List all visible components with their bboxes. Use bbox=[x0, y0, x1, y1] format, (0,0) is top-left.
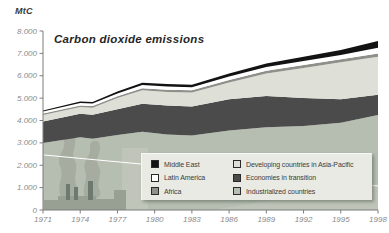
x-tick-label: 1971 bbox=[34, 215, 52, 224]
legend-label: Industrialized countries bbox=[246, 188, 315, 195]
y-tick-label: 3.000 bbox=[17, 138, 38, 147]
y-tick-label: 1.000 bbox=[17, 183, 38, 192]
legend-label: Economies in transition bbox=[246, 174, 316, 181]
legend-column-1: Middle East Latin America Africa bbox=[151, 158, 233, 197]
legend-label: Africa bbox=[164, 188, 181, 195]
legend-item-asia-pacific: Developing countries in Asia-Pacific bbox=[233, 158, 372, 170]
y-tick-label: 2.000 bbox=[16, 161, 38, 170]
chart-title: Carbon dioxide emissions bbox=[54, 33, 204, 45]
legend-item-latin-america: Latin America bbox=[151, 172, 233, 184]
legend-label: Developing countries in Asia-Pacific bbox=[246, 161, 353, 168]
chimney-icon bbox=[88, 181, 93, 200]
x-tick-label: 1974 bbox=[71, 215, 89, 224]
x-tick-label: 1992 bbox=[295, 215, 313, 224]
legend-column-2: Developing countries in Asia-Pacific Eco… bbox=[233, 158, 372, 197]
y-tick-label: 4.000 bbox=[17, 116, 38, 125]
asia-pacific-swatch-icon bbox=[233, 160, 241, 168]
legend-label: Latin America bbox=[164, 174, 205, 181]
chimney-icon bbox=[66, 184, 70, 200]
legend-label: Middle East bbox=[164, 161, 199, 168]
x-tick-label: 1998 bbox=[369, 215, 387, 224]
x-tick-label: 1986 bbox=[220, 215, 238, 224]
x-tick-label: 1989 bbox=[257, 215, 275, 224]
economies-in-transition-swatch-icon bbox=[233, 174, 241, 182]
y-tick-label: 5.000 bbox=[17, 94, 38, 103]
chimney-icon bbox=[74, 187, 78, 200]
latin-america-swatch-icon bbox=[151, 174, 159, 182]
x-tick-label: 1995 bbox=[332, 215, 350, 224]
chart-canvas: 8.0007.0006.0005.0004.0003.0002.0001.000… bbox=[0, 0, 389, 233]
y-tick-label: 8.000 bbox=[17, 27, 38, 36]
y-tick-label: 6.000 bbox=[17, 71, 38, 80]
y-tick-label: 0 bbox=[33, 206, 38, 215]
legend-item-africa: Africa bbox=[151, 185, 233, 197]
x-tick-label: 1980 bbox=[146, 215, 164, 224]
x-tick-label: 1977 bbox=[109, 215, 127, 224]
legend: Middle East Latin America Africa Develop… bbox=[141, 153, 372, 200]
y-tick-label: 7.000 bbox=[17, 49, 38, 58]
middle-east-swatch-icon bbox=[151, 160, 159, 168]
legend-item-economies-in-transition: Economies in transition bbox=[233, 172, 372, 184]
industrialized-countries-swatch-icon bbox=[233, 187, 241, 195]
legend-item-middle-east: Middle East bbox=[151, 158, 233, 170]
x-tick-label: 1983 bbox=[183, 215, 201, 224]
y-axis-unit-label: MtC bbox=[15, 6, 33, 16]
africa-swatch-icon bbox=[151, 187, 159, 195]
legend-item-industrialized-countries: Industrialized countries bbox=[233, 185, 372, 197]
